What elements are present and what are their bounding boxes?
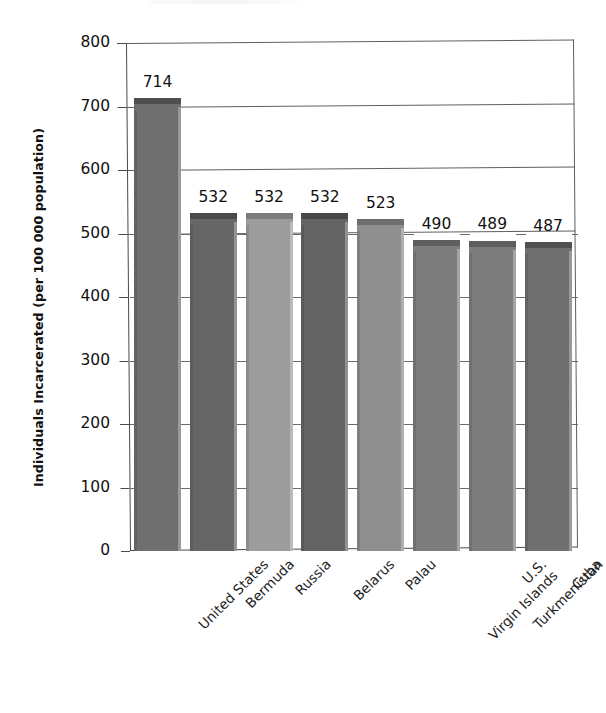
gridline-stub: [293, 361, 303, 362]
bar-top-face: [413, 240, 460, 246]
bar-edge-shadow: [357, 231, 360, 551]
bar-top-face: [357, 219, 404, 225]
bar-front-face: [525, 248, 572, 551]
gridline-stub: [293, 297, 303, 298]
bar-value-label: 523: [351, 194, 410, 212]
gridline-stub: [572, 424, 578, 425]
gridline-stub: [293, 488, 303, 489]
bar-value-label: 714: [128, 73, 187, 91]
gridline-stub: [348, 361, 358, 362]
bar-top-face: [301, 213, 348, 219]
y-tick-mark: [120, 361, 129, 362]
x-tick-label: Cuba: [569, 556, 605, 592]
gridline-stub: [404, 488, 414, 489]
y-tick-mark: [118, 170, 127, 171]
gridline-stub: [348, 424, 358, 425]
y-tick-mark: [121, 488, 130, 489]
gridline-stub: [516, 234, 526, 235]
x-tick-label: U.S.Virgin Islands: [473, 556, 560, 643]
gridline-stub: [130, 234, 134, 235]
plot-area: 714532532532523490489487: [130, 43, 578, 551]
bar-front-face: [469, 247, 516, 552]
gridline-stub: [348, 297, 358, 298]
bar-value-label: 489: [463, 215, 522, 233]
bar-front-face: [357, 225, 404, 551]
gridline-stub: [237, 234, 247, 235]
gridline-stub: [181, 424, 191, 425]
bar-edge-highlight: [569, 251, 572, 551]
gridline-stub: [460, 361, 470, 362]
bar-front-face: [134, 104, 181, 551]
gridline-stub: [348, 488, 358, 489]
gridline-stub: [516, 424, 526, 425]
gridline-stub: [237, 488, 247, 489]
y-tick-mark: [119, 234, 128, 235]
bar-value-label: 532: [295, 188, 354, 206]
y-tick-mark: [119, 297, 128, 298]
gridline-stub: [130, 361, 134, 362]
gridline-stub: [404, 297, 414, 298]
bar: [134, 98, 181, 551]
bar-value-label: 532: [240, 188, 299, 206]
gridline-stub: [348, 234, 358, 235]
y-axis-tick-labels: 0100200300400500600700800: [0, 43, 122, 551]
bar-top-face: [525, 242, 572, 248]
bar: [469, 241, 516, 552]
gridline-stub: [130, 488, 134, 489]
y-tick-mark: [121, 551, 130, 552]
x-tick-label-line: Belarus: [350, 556, 397, 603]
bar-edge-highlight: [234, 222, 237, 551]
bar-front-face: [413, 246, 460, 551]
gridline-stub: [130, 424, 134, 425]
gridline-stub: [404, 234, 414, 235]
y-tick-label: 700: [80, 99, 110, 115]
bar-front-face: [301, 219, 348, 551]
bar-chart-figure: Individuals Incarcerated (per 100 000 po…: [0, 0, 606, 713]
bar-edge-highlight: [457, 249, 460, 551]
gridline-stub: [237, 424, 247, 425]
x-axis-tick-labels: United StatesBermudaRussiaBelarusPalauU.…: [0, 556, 606, 713]
bar-series: 714532532532523490489487: [130, 43, 578, 551]
bar-top-face: [469, 241, 516, 247]
bar: [525, 242, 572, 551]
y-tick-mark: [118, 107, 127, 108]
gridline-stub: [293, 234, 303, 235]
bar: [190, 213, 237, 551]
x-tick-label-line: Russia: [292, 556, 334, 598]
bar: [357, 219, 404, 551]
bar: [413, 240, 460, 551]
bar-edge-shadow: [301, 225, 304, 551]
gridline-stub: [237, 297, 247, 298]
y-tick-label: 600: [80, 162, 110, 178]
gridline-stub: [572, 234, 578, 235]
bar: [301, 213, 348, 551]
y-tick-label: 500: [80, 226, 110, 242]
gridline-stub: [237, 361, 247, 362]
gridline-stub: [460, 488, 470, 489]
gridline-stub: [181, 361, 191, 362]
bar-edge-highlight: [290, 222, 293, 551]
bar-value-label: 532: [184, 188, 243, 206]
bar-edge-highlight: [401, 228, 404, 551]
x-tick-label: Belarus: [350, 556, 397, 603]
gridline-stub: [572, 297, 578, 298]
gridline-stub: [181, 297, 191, 298]
y-tick-label: 300: [80, 353, 110, 369]
y-tick-mark: [117, 43, 126, 44]
bar-top-face: [246, 213, 293, 219]
y-tick-label: 200: [80, 416, 110, 432]
bar-edge-shadow: [134, 110, 137, 551]
gridline-stub: [130, 297, 134, 298]
gridline-stub: [404, 361, 414, 362]
y-tick-label: 400: [80, 289, 110, 305]
bar-front-face: [246, 219, 293, 551]
bar-edge-highlight: [178, 107, 181, 551]
x-tick-label-line: Palau: [402, 556, 439, 593]
gridline-stub: [516, 297, 526, 298]
bar-top-face: [134, 98, 181, 104]
bar-value-label: 490: [407, 215, 466, 233]
gridline-stub: [404, 424, 414, 425]
gridline-stub: [460, 234, 470, 235]
y-tick-mark: [120, 424, 129, 425]
bar-value-label: 487: [519, 217, 578, 235]
